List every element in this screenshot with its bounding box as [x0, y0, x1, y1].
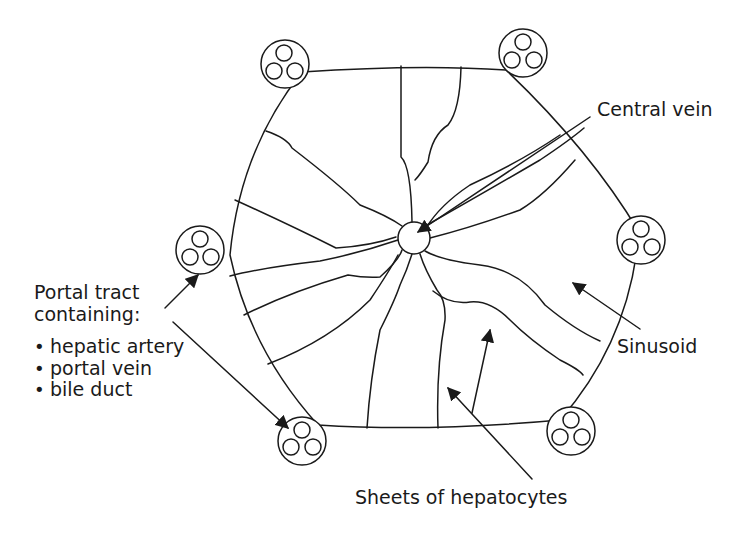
portal-item-portal-vein: portal vein — [34, 358, 184, 380]
liver-lobule-diagram — [0, 0, 749, 533]
sheet-line — [415, 67, 461, 180]
portal-item-hepatic-artery: hepatic artery — [34, 336, 184, 358]
portal-tract-top-left — [261, 40, 309, 88]
portal-tract-left — [176, 226, 224, 274]
sheet-line — [433, 291, 583, 375]
lobule-boundary — [230, 67, 639, 427]
portal-title-line2: containing: — [34, 304, 184, 326]
sheet-line — [401, 66, 412, 222]
portal-pointer-2 — [173, 322, 288, 428]
sheet-line — [230, 240, 398, 276]
sinusoid-label: Sinusoid — [617, 336, 697, 358]
portal-item-bile-duct: bile duct — [34, 379, 184, 401]
portal-tract-label: Portal tract containing: hepatic artery … — [34, 282, 184, 401]
portal-tract-right — [617, 216, 665, 264]
central-vein-pointer — [418, 117, 590, 232]
sheet-line — [235, 200, 396, 248]
central-vein-label: Central vein — [597, 99, 712, 121]
portal-tract-bottom-left — [278, 417, 326, 465]
sheet-line — [268, 255, 398, 364]
sheets-of-hepatocytes-label: Sheets of hepatocytes — [355, 487, 567, 509]
portal-tract-top-right — [499, 29, 547, 77]
sheets-pointer-1 — [448, 388, 532, 479]
sheet-line — [425, 251, 600, 341]
sheet-line — [266, 131, 402, 226]
portal-contents-list: hepatic artery portal vein bile duct — [34, 336, 184, 402]
sheets-pointer-2 — [472, 330, 490, 413]
sheet-line — [367, 254, 412, 428]
portal-tract-bottom-right — [547, 407, 595, 455]
portal-title-line1: Portal tract — [34, 282, 184, 304]
sheet-line — [420, 254, 445, 428]
